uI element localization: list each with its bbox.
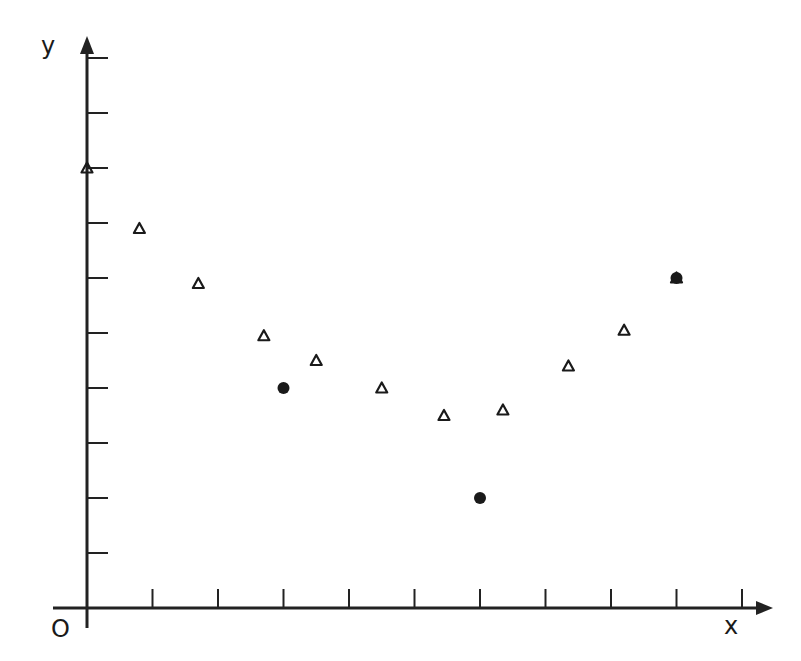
y-axis-arrow-icon [80, 36, 94, 54]
open-triangle-marker [497, 405, 508, 415]
scatter-chart [0, 0, 801, 661]
open-triangle-marker [258, 330, 269, 340]
open-triangle-marker [376, 383, 387, 393]
open-triangle-marker [619, 325, 630, 335]
open-triangle-marker [134, 223, 145, 233]
x-axis-arrow-icon [756, 601, 773, 615]
origin-label: O [51, 617, 70, 641]
filled-circle-marker [278, 382, 290, 394]
axis-ticks [87, 58, 742, 608]
x-axis-label: x [724, 614, 738, 638]
open-triangle-marker [311, 355, 322, 365]
data-markers [82, 163, 683, 505]
filled-circle-marker [474, 492, 486, 504]
open-triangle-marker [82, 163, 93, 173]
open-triangle-marker [438, 410, 449, 420]
open-triangle-marker [193, 278, 204, 288]
axes [53, 36, 773, 628]
open-triangle-marker [563, 361, 574, 371]
y-axis-label: y [41, 34, 55, 58]
